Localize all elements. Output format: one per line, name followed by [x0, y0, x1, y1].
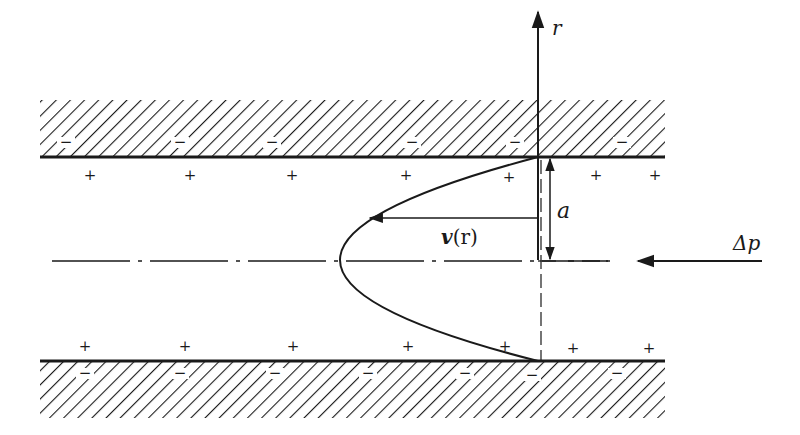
velocity-argument: (r)	[453, 225, 478, 249]
minus-sign: −	[266, 133, 279, 151]
minus-sign: −	[79, 364, 92, 382]
plus-sign: +	[402, 337, 415, 355]
plus-sign: +	[567, 339, 580, 357]
plus-sign: +	[79, 337, 92, 355]
minus-sign: −	[611, 364, 624, 382]
pressure-label: Δp	[732, 231, 760, 255]
minus-sign: −	[406, 133, 419, 151]
plus-sign: +	[400, 166, 413, 184]
minus-sign: −	[174, 364, 187, 382]
minus-sign: −	[269, 364, 282, 382]
plus-sign: +	[286, 166, 299, 184]
plus-sign: +	[287, 337, 300, 355]
bottom-fluid-charges: + + + + + + +	[79, 337, 656, 357]
flow-diagram: − − − − − − − − − − − − − + + + + + + + …	[0, 0, 800, 435]
velocity-profile-curve	[340, 157, 538, 361]
minus-sign: −	[60, 133, 73, 151]
plus-sign: +	[503, 168, 516, 186]
top-fluid-charges: + + + + + + +	[84, 166, 662, 186]
plus-sign: +	[84, 166, 97, 184]
top-wall	[40, 100, 665, 157]
plus-sign: +	[649, 166, 662, 184]
minus-sign: −	[616, 133, 629, 151]
minus-sign: −	[526, 366, 539, 384]
plus-sign: +	[184, 166, 197, 184]
velocity-label: v(r)	[441, 225, 478, 249]
minus-sign: −	[174, 133, 187, 151]
plus-sign: +	[643, 339, 656, 357]
radius-label: a	[557, 198, 570, 223]
velocity-symbol: v	[441, 225, 453, 249]
plus-sign: +	[179, 337, 192, 355]
r-axis-label: r	[552, 16, 563, 40]
plus-sign: +	[590, 166, 603, 184]
minus-sign: −	[459, 364, 472, 382]
minus-sign: −	[362, 364, 375, 382]
minus-sign: −	[509, 133, 522, 151]
bottom-wall	[40, 361, 665, 418]
